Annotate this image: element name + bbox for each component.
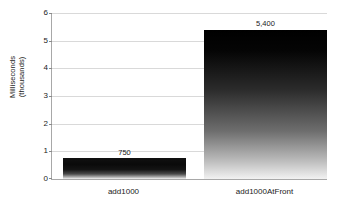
y-tick-label-6: 6 [34,9,48,17]
y-axis-title-line-2: (thousands) [17,29,26,125]
y-tick-label-1: 1 [34,147,48,155]
plot-area: 750 5,400 [51,13,327,180]
y-axis-tick-labels: 6 5 4 3 2 1 0 [34,0,48,209]
y-tick-label-4: 4 [34,64,48,72]
y-tick-label-2: 2 [34,120,48,128]
bar-chart: Milliseconds (thousands) 6 5 4 3 2 1 0 [0,0,349,209]
y-tick-label-5: 5 [34,37,48,45]
y-tick-mark-6 [49,13,52,14]
bar-add1000atfront[interactable] [204,30,327,179]
y-tick-mark-2 [49,124,52,125]
x-category-label-add1000atfront: add1000AtFront [203,187,326,196]
gridline-6 [52,13,327,14]
y-tick-mark-1 [49,151,52,152]
y-axis-title-line-1: Milliseconds [8,29,17,125]
plot-inner: 750 5,400 [52,13,327,179]
y-tick-mark-5 [49,41,52,42]
y-tick-label-0: 0 [34,175,48,183]
bar-add1000[interactable] [63,158,186,179]
bar-value-label-add1000atfront: 5,400 [204,20,327,28]
y-tick-mark-3 [49,96,52,97]
bar-value-label-add1000: 750 [63,149,186,157]
y-axis-title: Milliseconds (thousands) [8,29,26,125]
x-category-label-add1000: add1000 [62,187,185,196]
y-tick-label-3: 3 [34,92,48,100]
y-tick-mark-0 [49,178,52,179]
y-tick-mark-4 [49,68,52,69]
